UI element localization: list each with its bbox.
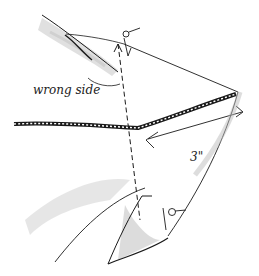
dimension-label: 3" (190, 150, 203, 164)
sewing-diagram: wrong side 3" (0, 0, 259, 276)
lower-fabric-shading (25, 92, 240, 260)
fold-dashed-line (118, 44, 140, 220)
pin-top-icon (123, 28, 140, 56)
top-edge-line (124, 44, 238, 92)
fabric-drawing (0, 0, 259, 276)
wrong-side-label: wrong side (33, 83, 100, 97)
